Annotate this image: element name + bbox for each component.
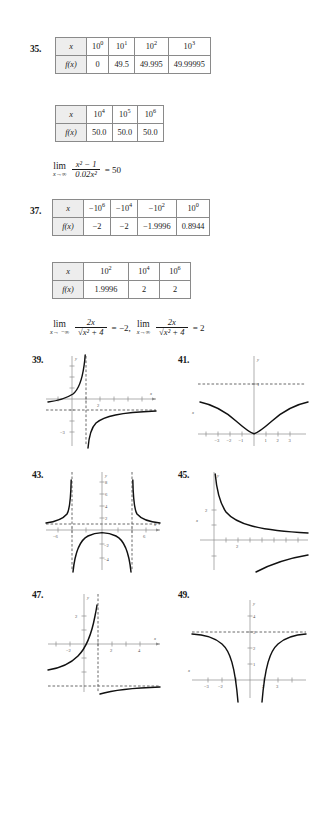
value-cell: −1.9996: [138, 218, 177, 236]
curve-branch-left: [192, 634, 238, 702]
x-axis-label: x: [153, 636, 156, 641]
curve-branch-upper: [215, 474, 308, 533]
y-tick-label: −3: [60, 430, 66, 435]
row-label-fx: f(x): [53, 218, 84, 236]
curve-branch-left: [46, 480, 71, 523]
row-label-fx: f(x): [56, 56, 87, 74]
curve-branch-right: [133, 480, 160, 523]
y-tick-label: 6: [105, 492, 108, 497]
value-cell: 50.0: [112, 124, 138, 142]
x-tick-label: 3: [289, 438, 292, 443]
problem-37-limits: lim x→ −∞ 2x √x² + 4 = −2, lim x→∞ 2x √x…: [50, 318, 206, 337]
x-tick-label: −3: [215, 438, 221, 443]
value-cell: 50.0: [87, 124, 113, 142]
header-cell: −102: [138, 200, 177, 218]
curve-branch-right: [100, 687, 160, 694]
problem-37-table-1: x −106 −104 −102 100 f(x) −2 −2 −1.9996 …: [52, 199, 210, 236]
row-label-x: x: [56, 38, 87, 56]
y-tick-label: 1: [257, 382, 260, 387]
limit-operator: lim x→∞: [53, 162, 66, 178]
x-axis-label: x: [191, 410, 194, 415]
problem-45-number-wrap: 45.: [178, 464, 189, 482]
x-tick-label: 2: [97, 403, 100, 408]
header-cell: −106: [84, 200, 111, 218]
y-axis-label: y: [74, 356, 78, 361]
limit-operator-right: lim x→∞: [137, 320, 150, 336]
x-tick-label: −3: [204, 684, 210, 689]
problem-47-graph: −2 2 4 2 y x: [44, 590, 164, 694]
problem-47-number-wrap: 47.: [32, 584, 43, 602]
x-axis-label: x: [195, 518, 198, 523]
problem-35-limit: lim x→∞ x² − 1 0.02x² = 50: [53, 160, 123, 179]
curve-branch-left: [48, 355, 85, 402]
x-tick-label: 3: [276, 684, 279, 689]
problem-41-number: 41.: [178, 355, 189, 365]
table-row: x −106 −104 −102 100: [53, 200, 210, 218]
sqrt-expression: √x² + 4: [156, 327, 188, 337]
y-axis-label: y: [86, 595, 90, 600]
y-tick-label: 2: [105, 516, 108, 521]
header-cell: 102: [134, 38, 168, 56]
value-cell: 0.8944: [176, 218, 210, 236]
x-axis-label: x: [187, 668, 190, 673]
table-row: x 104 105 106: [56, 106, 164, 124]
row-label-fx: f(x): [53, 281, 84, 299]
value-cell: 49.99995: [168, 56, 210, 74]
limit-result-right: = 2: [193, 323, 205, 333]
y-tick-label: 3: [253, 630, 256, 635]
x-axis-arrow: [156, 528, 160, 531]
value-cell: −2: [84, 218, 111, 236]
value-cell: 2: [160, 281, 191, 299]
table-row: f(x) 1.9996 2 2: [53, 281, 191, 299]
value-cell: 1.9996: [84, 281, 129, 299]
y-axis-label: y: [256, 357, 260, 362]
x-tick-label: 6: [143, 534, 146, 539]
y-axis-label: y: [104, 473, 108, 478]
curve-branch-right: [262, 634, 306, 702]
curve-branch-right: [88, 411, 156, 448]
value-cell: −2: [111, 218, 138, 236]
problem-49-graph: −3 −2 2 3 1 2 3 4 y x: [188, 594, 310, 702]
y-tick-label: 2: [75, 614, 78, 619]
x-tick-label: −2: [66, 648, 72, 653]
header-cell: 102: [84, 263, 129, 281]
row-label-x: x: [56, 106, 87, 124]
x-tick-label: 4: [138, 648, 141, 653]
problem-43-graph: −6 6 2 4 6 8 −2 −4 x y: [42, 468, 164, 572]
y-tick-label: 4: [253, 614, 256, 619]
x-tick-label: −2: [227, 438, 233, 443]
problem-35: 35.: [30, 38, 41, 56]
x-axis-arrow: [156, 642, 160, 645]
header-cell: 105: [112, 106, 138, 124]
y-tick-label: 1: [253, 662, 256, 667]
curve-branch-lower: [256, 555, 308, 572]
value-cell: 50.0: [138, 124, 164, 142]
problem-39-graph: 2 −3 x y: [42, 352, 160, 448]
limit-fraction: x² − 1 0.02x²: [72, 160, 99, 179]
y-tick-label: 2: [253, 646, 256, 651]
x-tick-label: −1: [239, 438, 245, 443]
limit-result: = 50: [105, 165, 121, 175]
value-cell: 2: [129, 281, 160, 299]
problem-37-number: 37.: [30, 206, 41, 216]
x-tick-label: −6: [53, 534, 59, 539]
table-row: f(x) 0 49.5 49.995 49.99995: [56, 56, 211, 74]
x-tick-label: −2: [218, 684, 224, 689]
problem-35-table-2: x 104 105 106 f(x) 50.0 50.0 50.0: [55, 105, 164, 142]
header-cell: −104: [111, 200, 138, 218]
x-tick-label: 2: [277, 438, 280, 443]
x-axis-arrow: [152, 397, 156, 400]
limit-operator-left: lim x→ −∞: [50, 320, 69, 336]
header-cell: 104: [87, 106, 113, 124]
table-row: x 102 104 106: [53, 263, 191, 281]
x-tick-label: 2: [110, 648, 113, 653]
limit-result-left: = −2,: [112, 323, 131, 333]
x-axis-label: x: [149, 391, 152, 396]
problem-45-number: 45.: [178, 470, 189, 480]
table-row: f(x) 50.0 50.0 50.0: [56, 124, 164, 142]
header-cell: 100: [176, 200, 210, 218]
row-label-fx: f(x): [56, 124, 87, 142]
row-label-x: x: [53, 200, 84, 218]
limit-fraction-left: 2x √x² + 4: [75, 318, 107, 337]
y-tick-label: −4: [104, 557, 110, 562]
